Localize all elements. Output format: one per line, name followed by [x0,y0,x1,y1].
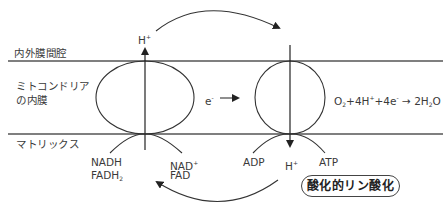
proton-transfer-curved-arrow [156,11,279,31]
matrix-label: マトリックス [16,138,79,151]
nadh-label: NADH [91,156,122,169]
right-reaction-arc [253,134,325,153]
adp-label: ADP [243,156,265,169]
water-formation-equation: O2+4H++4e- → 2H2O [334,91,441,111]
atp-label: ATP [319,156,338,169]
cycle-return-curved-arrow [157,180,278,202]
oxidative-phosphorylation-badge: 酸化的リン酸化 [301,175,400,197]
fad-label: FAD [170,169,190,182]
left-reaction-arc [110,134,182,153]
fadh2-label: FADH2 [91,169,123,185]
electron-label: e- [205,91,214,108]
inner-membrane-label-line2: の内膜 [16,94,48,107]
inner-membrane-label-line1: ミトコンドリア [16,80,90,93]
intermembrane-space-label: 内外膜間腔 [14,47,67,60]
proton-label-bottom: H+ [285,156,298,173]
proton-label-top: H+ [138,30,151,47]
